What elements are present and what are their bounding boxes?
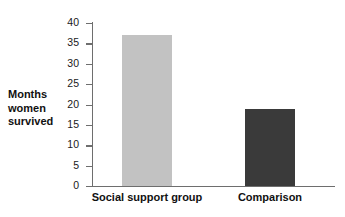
x-axis-label-comparison: Comparison <box>180 191 345 203</box>
y-axis-tick-label: 30 <box>39 57 79 69</box>
y-axis-tick-label: 35 <box>39 36 79 48</box>
bar-chart-figure: Months women survived 0510152025303540 S… <box>0 0 345 217</box>
bar-comparison <box>245 109 295 186</box>
y-axis-tick-label: 0 <box>39 179 79 191</box>
y-axis-tick-label: 15 <box>39 118 79 130</box>
y-axis-tick-mark <box>86 186 92 187</box>
bar-social-support-group <box>122 35 172 186</box>
y-axis-tick-label: 25 <box>39 77 79 89</box>
plot-area <box>92 23 337 186</box>
y-axis-tick-label: 10 <box>39 138 79 150</box>
y-axis-tick-label: 5 <box>39 159 79 171</box>
y-axis-tick-label: 40 <box>39 16 79 28</box>
x-axis-line <box>92 186 335 187</box>
y-axis-tick-label: 20 <box>39 98 79 110</box>
